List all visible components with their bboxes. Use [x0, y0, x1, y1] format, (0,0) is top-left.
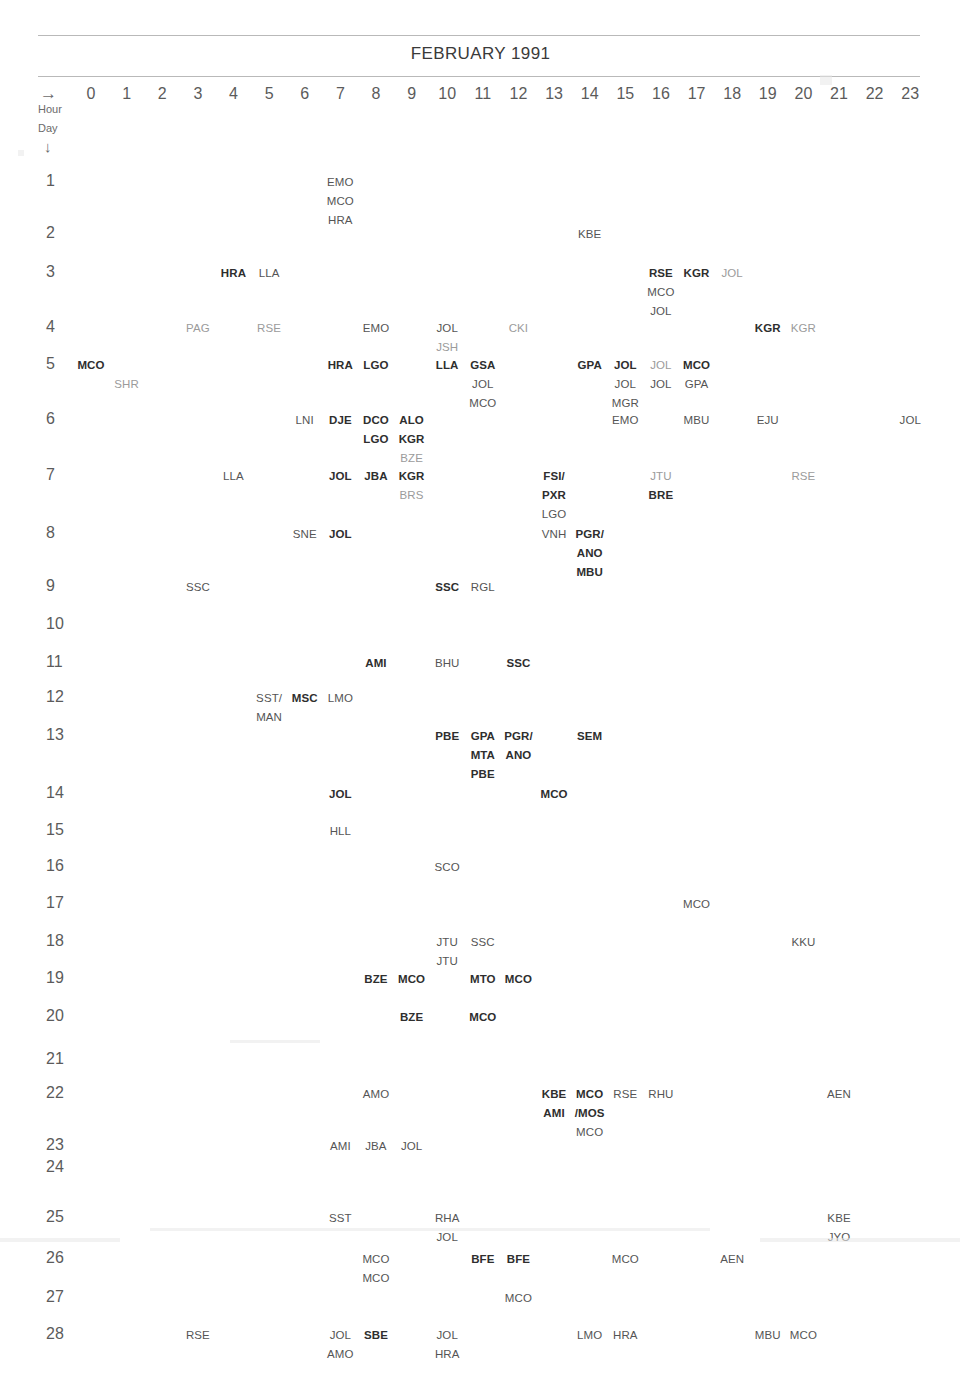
day-number-21: 21 — [46, 1050, 72, 1068]
event-code: KGR — [784, 322, 822, 334]
event-code: MCO — [393, 973, 431, 985]
event-code: SST — [321, 1212, 359, 1224]
event-code: MCO — [678, 898, 716, 910]
hour-axis-label: Hour — [38, 103, 62, 115]
day-number-20: 20 — [46, 1007, 72, 1025]
event-code: KBE — [535, 1088, 573, 1100]
event-code: JOL — [428, 322, 466, 334]
day-number-12: 12 — [46, 688, 72, 706]
event-code: AMO — [357, 1088, 395, 1100]
hour-tick-11: 11 — [468, 85, 498, 103]
day-number-17: 17 — [46, 894, 72, 912]
event-code: MCO — [464, 397, 502, 409]
event-code: JOL — [642, 359, 680, 371]
event-code: HRA — [321, 359, 359, 371]
hour-tick-9: 9 — [397, 85, 427, 103]
event-code: GPA — [464, 730, 502, 742]
day-number-24: 24 — [46, 1158, 72, 1176]
day-number-6: 6 — [46, 410, 72, 428]
event-code: GPA — [678, 378, 716, 390]
hour-tick-13: 13 — [539, 85, 569, 103]
event-code: LMO — [321, 692, 359, 704]
hour-tick-23: 23 — [895, 85, 925, 103]
event-code: MCO — [321, 195, 359, 207]
event-code: SEM — [571, 730, 609, 742]
event-code: JOL — [606, 359, 644, 371]
event-code: AMO — [321, 1348, 359, 1360]
event-code: MBU — [571, 566, 609, 578]
hour-tick-10: 10 — [432, 85, 462, 103]
event-code: FSI/ — [535, 470, 573, 482]
event-code: JOL — [642, 305, 680, 317]
event-code: RHA — [428, 1212, 466, 1224]
event-code: ALO — [393, 414, 431, 426]
event-code: JOL — [891, 414, 929, 426]
event-code: AMI — [321, 1140, 359, 1152]
event-code: DJE — [321, 414, 359, 426]
event-code: AMI — [535, 1107, 573, 1119]
event-code: RGL — [464, 581, 502, 593]
event-code: JTU — [428, 936, 466, 948]
event-code: MBU — [678, 414, 716, 426]
event-code: BZE — [357, 973, 395, 985]
event-code: BRS — [393, 489, 431, 501]
event-code: MGR — [606, 397, 644, 409]
day-number-8: 8 — [46, 524, 72, 542]
event-code: MCO — [464, 1011, 502, 1023]
event-code: MTA — [464, 749, 502, 761]
hour-tick-18: 18 — [717, 85, 747, 103]
calendar-sheet: FEBRUARY 1991 → Hour Day ↓ 0123456789101… — [0, 0, 961, 1389]
event-code: CKI — [499, 322, 537, 334]
day-number-10: 10 — [46, 615, 72, 633]
event-code: KGR — [393, 470, 431, 482]
event-code: EMO — [606, 414, 644, 426]
event-code: SCO — [428, 861, 466, 873]
event-code: JOL — [321, 1329, 359, 1341]
event-code: PBE — [428, 730, 466, 742]
event-code: JOL — [713, 267, 751, 279]
hour-arrow-icon: → — [40, 84, 57, 104]
event-code: KBE — [571, 228, 609, 240]
event-code: RSE — [250, 322, 288, 334]
scan-artifact — [820, 75, 832, 85]
event-code: EMO — [321, 176, 359, 188]
event-code: MCO — [678, 359, 716, 371]
event-code: MCO — [642, 286, 680, 298]
event-code: EJU — [749, 414, 787, 426]
event-code: HRA — [428, 1348, 466, 1360]
event-code: VNH — [535, 528, 573, 540]
hour-tick-5: 5 — [254, 85, 284, 103]
day-number-1: 1 — [46, 172, 72, 190]
event-code: MCO — [499, 1292, 537, 1304]
event-code: PAG — [179, 322, 217, 334]
event-code: AMI — [357, 657, 395, 669]
day-number-18: 18 — [46, 932, 72, 950]
event-code: RSE — [179, 1329, 217, 1341]
event-code: SHR — [108, 378, 146, 390]
event-code: LLA — [250, 267, 288, 279]
event-code: HRA — [214, 267, 252, 279]
event-code: SSC — [428, 581, 466, 593]
event-code: MSC — [286, 692, 324, 704]
day-number-27: 27 — [46, 1288, 72, 1306]
hour-tick-15: 15 — [610, 85, 640, 103]
hour-tick-20: 20 — [788, 85, 818, 103]
event-code: JTU — [642, 470, 680, 482]
event-code: JOL — [428, 1231, 466, 1243]
event-code: BHU — [428, 657, 466, 669]
event-code: JBA — [357, 1140, 395, 1152]
day-number-16: 16 — [46, 857, 72, 875]
event-code: KGR — [393, 433, 431, 445]
event-code: KBE — [820, 1212, 858, 1224]
event-code: RHU — [642, 1088, 680, 1100]
hour-tick-12: 12 — [503, 85, 533, 103]
day-arrow-icon: ↓ — [44, 138, 52, 155]
event-code: PGR/ — [571, 528, 609, 540]
event-code: GPA — [571, 359, 609, 371]
day-number-28: 28 — [46, 1325, 72, 1343]
event-code: LGO — [357, 359, 395, 371]
event-code: GSA — [464, 359, 502, 371]
event-code: JBA — [357, 470, 395, 482]
event-code: MAN — [250, 711, 288, 723]
event-code: MCO — [357, 1253, 395, 1265]
